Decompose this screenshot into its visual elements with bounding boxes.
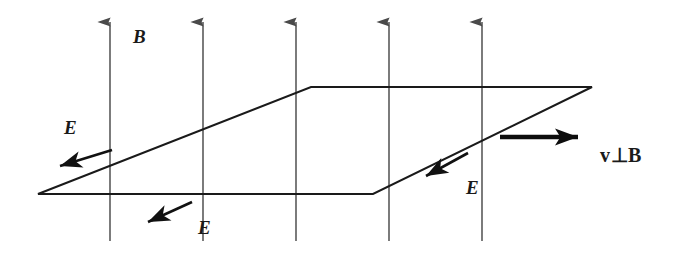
e-field-label-left: E (64, 118, 77, 137)
e-vector-left (60, 150, 112, 166)
e-vector-bottom (148, 202, 192, 222)
velocity-label: v⊥B (600, 145, 642, 165)
physics-diagram: B E E E v⊥B (0, 0, 677, 253)
e-field-label-right: E (466, 178, 479, 197)
e-field-label-bottom: E (198, 218, 211, 237)
conducting-plane (38, 87, 592, 194)
magnetic-field-label: B (133, 27, 146, 46)
diagram-canvas (0, 0, 677, 253)
magnetic-field-lines (110, 22, 482, 241)
